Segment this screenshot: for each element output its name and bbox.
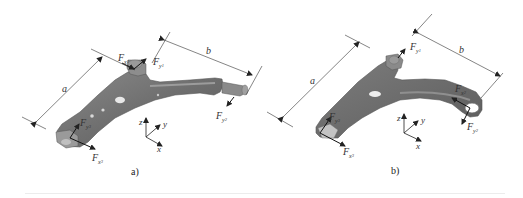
panel-a-axis-z: z xyxy=(139,118,143,127)
panel-b-caption: b) xyxy=(391,166,399,176)
panel-b-dimension-a-label: a xyxy=(310,76,315,86)
control-arm-figure: a b Fx1 Fy1 Fy2 Fy3 Fx3 z y x a) a b Fy1… xyxy=(0,0,523,198)
panel-b-axis-x: x xyxy=(416,142,420,151)
panel-a-axis-y: y xyxy=(163,120,167,129)
panel-b-force-fy3: Fy3 xyxy=(329,112,340,122)
panel-a-force-fy1: Fy1 xyxy=(153,57,164,67)
panel-a-force-fx3: Fx3 xyxy=(92,153,103,163)
panel-b-axis-triad xyxy=(404,114,421,141)
panel-b-force-fy1: Fy1 xyxy=(410,42,421,52)
panel-a-force-fy2: Fy2 xyxy=(216,111,227,121)
panel-a-caption: a) xyxy=(131,167,139,177)
panel-a-dimension-a-label: a xyxy=(62,84,67,94)
panel-a-part xyxy=(56,60,248,148)
panel-b-force-fy2: Fy2 xyxy=(467,122,478,132)
panel-a-axis-triad xyxy=(146,118,162,146)
figure-drawing xyxy=(0,0,523,198)
panel-b-dimension-b-label: b xyxy=(459,45,464,55)
panel-a-axis-x: x xyxy=(157,145,161,154)
panel-b-force-fx2: Fx2 xyxy=(455,84,466,94)
panel-b-force-fx3: Fx3 xyxy=(343,147,354,157)
panel-a-force-fy3: Fy3 xyxy=(80,118,91,128)
panel-b-part xyxy=(316,54,482,138)
panel-a-dimension-b-label: b xyxy=(206,46,211,56)
panel-a-force-fx1: Fx1 xyxy=(118,53,129,63)
panel-b-axis-z: z xyxy=(397,114,401,123)
bottom-divider xyxy=(25,193,505,194)
panel-b-axis-y: y xyxy=(421,116,425,125)
